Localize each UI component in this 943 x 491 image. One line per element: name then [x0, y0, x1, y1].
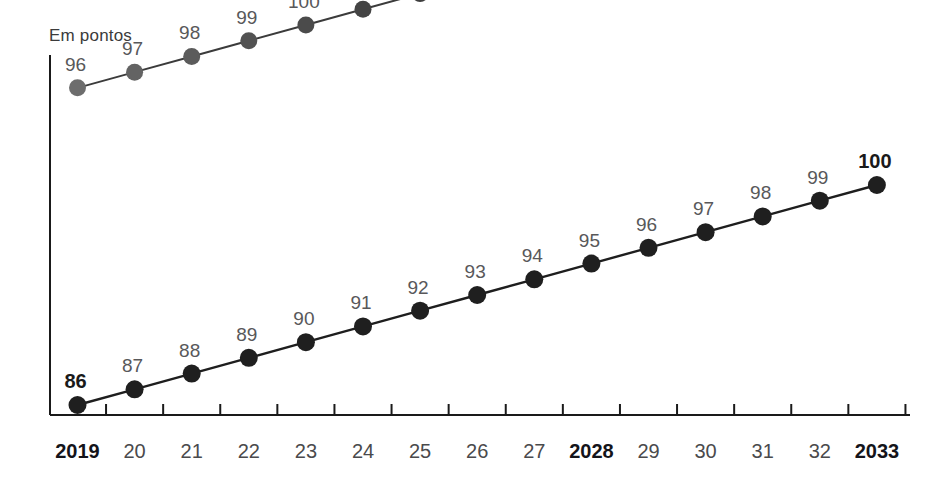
- data-point-label: 96: [65, 55, 86, 74]
- x-axis-tick-label: 29: [637, 441, 659, 461]
- data-point-label: 93: [465, 262, 486, 281]
- data-point-marker: [525, 270, 543, 288]
- series-line: [78, 0, 592, 88]
- x-axis-tick-label: 32: [809, 441, 831, 461]
- data-point-label: 100: [858, 151, 891, 171]
- data-point-marker: [240, 32, 257, 49]
- chart-container: Em pontos 969798991001011021031041058687…: [0, 0, 943, 491]
- data-point-label: 100: [288, 0, 320, 11]
- data-point-marker: [468, 286, 486, 304]
- data-point-label: 91: [350, 293, 371, 312]
- data-point-label: 89: [236, 325, 257, 344]
- x-axis-tick-label: 31: [752, 441, 774, 461]
- x-axis-tick-label: 21: [181, 441, 203, 461]
- y-axis-title: Em pontos: [49, 26, 132, 46]
- data-point-label: 98: [179, 23, 200, 42]
- data-point-marker: [297, 333, 315, 351]
- chart-plot: [0, 0, 943, 491]
- x-axis-tick-label: 27: [523, 441, 545, 461]
- data-point-marker: [69, 79, 86, 96]
- data-point-marker: [69, 396, 87, 414]
- data-point-label: 87: [122, 356, 143, 375]
- data-point-marker: [126, 64, 143, 81]
- data-point-marker: [640, 239, 658, 257]
- data-point-label: 99: [807, 168, 828, 187]
- data-point-marker: [868, 176, 886, 194]
- x-axis-tick-label: 2033: [855, 441, 900, 461]
- data-point-label: 97: [693, 199, 714, 218]
- data-point-marker: [754, 207, 772, 225]
- data-point-label: 94: [522, 246, 543, 265]
- data-point-marker: [412, 0, 429, 2]
- data-point-label: 99: [236, 8, 257, 27]
- x-axis-tick-label: 25: [409, 441, 431, 461]
- data-point-label: 95: [579, 231, 600, 250]
- series-upper-series: [69, 0, 600, 96]
- data-point-label: 92: [408, 278, 429, 297]
- data-point-label: 90: [293, 309, 314, 328]
- x-axis-tick-label: 22: [238, 441, 260, 461]
- data-point-marker: [697, 223, 715, 241]
- data-point-marker: [240, 349, 258, 367]
- x-axis-tick-label: 20: [123, 441, 145, 461]
- data-point-marker: [811, 192, 829, 210]
- data-point-marker: [297, 17, 314, 34]
- chart-axes: [50, 55, 910, 415]
- x-axis-tick-label: 26: [466, 441, 488, 461]
- data-point-label: 96: [636, 215, 657, 234]
- data-point-label: 98: [750, 183, 771, 202]
- data-point-marker: [582, 255, 600, 273]
- x-axis-tick-label: 23: [295, 441, 317, 461]
- data-point-marker: [354, 317, 372, 335]
- data-point-marker: [355, 1, 372, 18]
- data-point-marker: [126, 380, 144, 398]
- x-axis-tick-label: 2019: [55, 441, 100, 461]
- data-point-marker: [411, 302, 429, 320]
- x-axis-tick-label: 30: [694, 441, 716, 461]
- data-point-label: 88: [179, 341, 200, 360]
- data-point-marker: [183, 365, 201, 383]
- data-point-marker: [183, 48, 200, 65]
- data-point-label: 97: [122, 39, 143, 58]
- x-axis-tick-label: 2028: [569, 441, 614, 461]
- series-lower-series: [69, 176, 886, 414]
- data-point-label: 86: [64, 371, 86, 391]
- x-axis-tick-label: 24: [352, 441, 374, 461]
